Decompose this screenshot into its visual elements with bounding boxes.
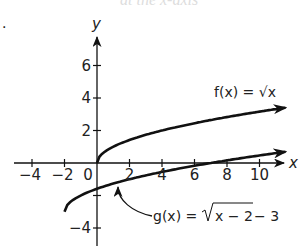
y-tick-label: −4 [69, 219, 91, 237]
y-tick-label: 6 [81, 57, 91, 75]
x-tick-label: 4 [157, 166, 167, 184]
y-tick-label: 2 [81, 122, 91, 140]
x-tick-label: 6 [190, 166, 200, 184]
x-tick-label: 0 [83, 166, 93, 184]
x-axis-label: x [288, 154, 298, 172]
labels: xy−4−20246810642−4f(x) = √xg(x) =x − 2 −… [19, 15, 298, 237]
f-function-label: f(x) = √x [214, 84, 276, 100]
function-graph: xy−4−20246810642−4f(x) = √xg(x) =x − 2 −… [0, 0, 301, 247]
svg-text:x − 2: x − 2 [215, 208, 253, 224]
svg-text:g(x) =: g(x) = [153, 208, 197, 224]
y-tick-label: 4 [81, 89, 91, 107]
x-tick-label: 10 [250, 166, 269, 184]
x-tick-label: −2 [51, 166, 73, 184]
x-tick-label: 2 [125, 166, 135, 184]
g-pointer-arrow [118, 187, 152, 216]
y-axis-label: y [91, 15, 102, 33]
x-tick-label: −4 [19, 166, 41, 184]
x-tick-label: 8 [222, 166, 232, 184]
g-function-label: g(x) =x − 2 − 3 [153, 203, 279, 224]
svg-text:− 3: − 3 [254, 208, 279, 224]
